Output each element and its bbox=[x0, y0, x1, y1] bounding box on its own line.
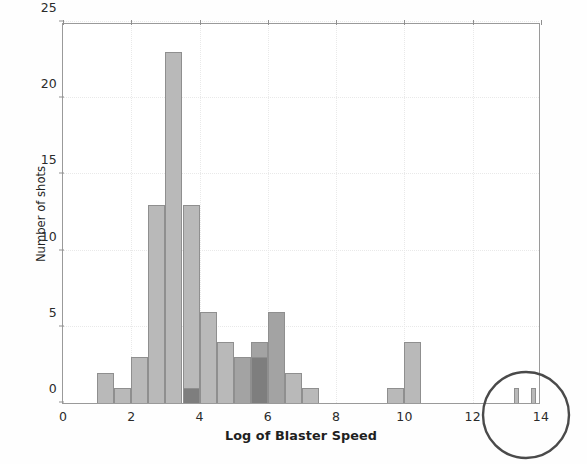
gridline-vertical bbox=[473, 24, 474, 403]
x-axis-label: Log of Blaster Speed bbox=[62, 428, 540, 443]
histogram-bar bbox=[183, 388, 200, 403]
histogram-bar bbox=[285, 373, 302, 403]
gridline-horizontal bbox=[63, 21, 539, 22]
histogram-bar bbox=[514, 388, 519, 403]
plot-area: 0510152025 02468101214 bbox=[62, 23, 540, 404]
x-tick-mark bbox=[63, 20, 64, 25]
y-tick-label: 0 bbox=[49, 381, 57, 396]
x-tick-mark bbox=[404, 20, 405, 25]
x-tick-label: 0 bbox=[59, 409, 67, 424]
x-tick-mark bbox=[473, 20, 474, 25]
y-tick-mark bbox=[59, 325, 64, 326]
histogram-bar bbox=[148, 205, 165, 403]
histogram-bar bbox=[97, 373, 114, 403]
histogram-bar bbox=[302, 388, 319, 403]
gridline-vertical bbox=[336, 24, 337, 403]
gridline-horizontal bbox=[63, 250, 539, 251]
histogram-bar bbox=[165, 52, 182, 403]
histogram-bar bbox=[217, 342, 234, 403]
histogram-bar bbox=[251, 357, 268, 403]
gridline-horizontal bbox=[63, 97, 539, 98]
x-tick-mark bbox=[541, 20, 542, 25]
x-tick-label: 6 bbox=[264, 409, 272, 424]
x-tick-label: 10 bbox=[396, 409, 412, 424]
x-tick-mark bbox=[131, 20, 132, 25]
y-tick-mark bbox=[59, 402, 64, 403]
histogram-bar bbox=[200, 312, 217, 403]
x-tick-label: 2 bbox=[127, 409, 135, 424]
chart-canvas: Number of shots 0510152025 02468101214 L… bbox=[0, 0, 587, 464]
y-tick-label: 20 bbox=[41, 76, 57, 91]
histogram-bar bbox=[234, 357, 251, 403]
y-tick-mark bbox=[59, 97, 64, 98]
y-tick-mark bbox=[59, 249, 64, 250]
y-tick-label: 15 bbox=[41, 152, 57, 167]
y-tick-label: 5 bbox=[49, 304, 57, 319]
gridline-horizontal bbox=[63, 326, 539, 327]
histogram-bar bbox=[387, 388, 404, 403]
x-tick-label: 8 bbox=[332, 409, 340, 424]
x-tick-label: 14 bbox=[533, 409, 549, 424]
x-tick-mark bbox=[200, 20, 201, 25]
histogram-bar bbox=[131, 357, 148, 403]
histogram-bar bbox=[531, 388, 536, 403]
y-tick-label: 25 bbox=[41, 0, 57, 15]
histogram-bar bbox=[404, 342, 421, 403]
histogram-bar bbox=[183, 205, 200, 403]
histogram-bar bbox=[268, 312, 285, 403]
y-tick-mark bbox=[59, 173, 64, 174]
y-tick-label: 10 bbox=[41, 228, 57, 243]
x-tick-mark bbox=[268, 20, 269, 25]
histogram-bar bbox=[114, 388, 131, 403]
x-tick-mark bbox=[336, 20, 337, 25]
gridline-vertical bbox=[131, 24, 132, 403]
x-tick-label: 12 bbox=[465, 409, 481, 424]
y-axis-label-container: Number of shots bbox=[14, 23, 34, 404]
gridline-horizontal bbox=[63, 173, 539, 174]
x-tick-label: 4 bbox=[195, 409, 203, 424]
